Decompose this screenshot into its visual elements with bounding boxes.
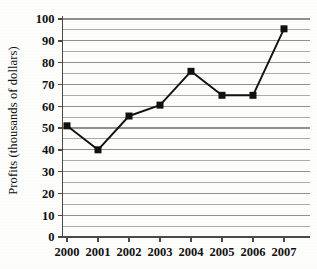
data-point-marker <box>281 25 288 32</box>
x-axis-tick-label: 2001 <box>86 245 111 259</box>
x-axis-tick-label: 2004 <box>179 245 205 259</box>
data-series-line <box>67 29 284 150</box>
data-point-marker <box>219 92 226 99</box>
y-axis-tick-label: 20 <box>42 187 55 201</box>
y-axis-tick-label: 0 <box>48 230 54 244</box>
x-axis-tick-label: 2000 <box>55 245 80 259</box>
data-point-marker <box>64 122 71 129</box>
chart-plot-area: 0102030405060708090100 20002001200220032… <box>0 0 317 269</box>
x-axis-tick-label: 2003 <box>148 245 173 259</box>
y-axis-tick-labels: 0102030405060708090100 <box>36 12 55 244</box>
y-axis-tick-label: 30 <box>42 165 55 179</box>
x-axis-tick-label: 2007 <box>272 245 297 259</box>
y-axis-tick-label: 90 <box>42 34 55 48</box>
series-polyline <box>67 29 284 150</box>
data-point-marker <box>250 92 257 99</box>
y-axis-tick-label: 50 <box>42 121 55 135</box>
data-point-marker <box>126 113 133 120</box>
y-axis-tick-label: 70 <box>42 78 55 92</box>
data-point-marker <box>188 68 195 75</box>
y-axis-tick-label: 40 <box>42 143 55 157</box>
x-axis-tick-labels: 20002001200220032004200520062007 <box>55 245 297 259</box>
y-axis-tick-label: 80 <box>42 56 55 70</box>
y-axis-tick-label: 60 <box>42 100 55 114</box>
y-axis-tick-label: 100 <box>36 12 55 26</box>
y-axis-tick-label: 10 <box>42 209 55 223</box>
line-chart: Profits (thousands of dollars) 010203040… <box>0 0 317 269</box>
x-axis-tick-label: 2002 <box>117 245 142 259</box>
x-axis-tick-label: 2006 <box>241 245 266 259</box>
x-axis-tick-label: 2005 <box>210 245 235 259</box>
data-point-marker <box>95 146 102 153</box>
data-point-marker <box>157 102 164 109</box>
